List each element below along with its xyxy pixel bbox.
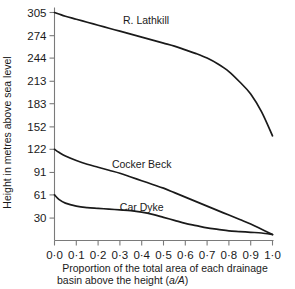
x-tick-label: 1·0: [264, 249, 281, 261]
y-tick-label: 91: [34, 166, 47, 178]
y-tick-label: 122: [27, 143, 46, 155]
y-tick-label: 61: [34, 189, 47, 201]
series-label-r-lathkill: R. Lathkill: [123, 14, 169, 26]
y-tick-label: 30: [34, 212, 47, 224]
curve-r-lathkill: [55, 13, 273, 136]
y-tick-label: 183: [27, 98, 46, 110]
y-axis-tick-marks: [50, 13, 55, 219]
x-tick-label: 0·5: [155, 249, 172, 261]
x-tick-label: 0·6: [177, 249, 194, 261]
x-tick-label: 0·3: [112, 249, 129, 261]
y-tick-label: 305: [27, 7, 46, 19]
series-label-car-dyke: Car Dyke: [120, 201, 164, 213]
x-tick-label: 0·1: [68, 249, 85, 261]
y-tick-label: 244: [27, 52, 47, 64]
x-tick-label: 0·9: [242, 249, 259, 261]
chart-canvas: 306191122152183213244274305 0·00·10·20·3…: [0, 0, 295, 289]
y-axis-tick-labels: 306191122152183213244274305: [27, 7, 47, 225]
hypsometric-curve-figure: 306191122152183213244274305 0·00·10·20·3…: [0, 0, 295, 289]
x-tick-label: 0·0: [46, 249, 63, 261]
y-tick-label: 152: [27, 121, 46, 133]
x-tick-label: 0·7: [199, 249, 216, 261]
x-tick-label: 0·8: [221, 249, 238, 261]
y-tick-label: 274: [27, 30, 47, 42]
series-label-cocker-beck: Cocker Beck: [112, 158, 172, 170]
x-axis-title-line-1: Proportion of the total area of each dra…: [62, 262, 268, 274]
x-axis-tick-marks: [55, 241, 273, 246]
y-tick-label: 213: [27, 75, 46, 87]
x-tick-label: 0·2: [90, 249, 107, 261]
x-axis-tick-labels: 0·00·10·20·30·40·50·60·70·80·91·0: [46, 249, 281, 261]
x-axis-title-line-2: basin above the height (a/A): [57, 274, 188, 286]
y-axis-title: Height in metres above sea level: [1, 56, 13, 208]
x-tick-label: 0·4: [133, 249, 150, 261]
